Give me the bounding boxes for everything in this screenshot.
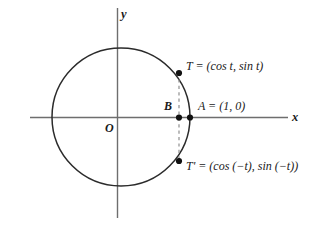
point-T-label: T = (cos t, sin t) — [186, 60, 263, 72]
point-T-marker — [176, 70, 182, 76]
x-axis-label: x — [292, 111, 298, 124]
point-T-prime-label: T' = (cos (−t), sin (−t)) — [186, 160, 298, 172]
point-A-marker — [187, 114, 193, 120]
point-B-label: B — [164, 100, 172, 112]
y-axis-label: y — [121, 8, 127, 21]
unit-circle-figure: y x O B T = (cos t, sin t) A = (1, 0) T'… — [0, 0, 332, 237]
point-B-marker — [176, 114, 182, 120]
diagram-canvas — [0, 0, 332, 237]
point-A-label: A = (1, 0) — [198, 100, 245, 112]
point-T-prime-marker — [176, 158, 182, 164]
origin-label: O — [105, 122, 114, 134]
